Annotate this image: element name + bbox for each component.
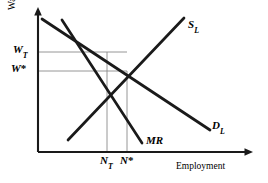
marginal-revenue-curve-MR bbox=[62, 20, 142, 143]
supply-curve-label: SL bbox=[188, 19, 199, 33]
employment-tick-nstar-base: N bbox=[120, 154, 128, 166]
wage-tick-wt-base: W bbox=[13, 43, 23, 55]
employment-tick-label-nt: NT bbox=[100, 155, 113, 169]
curves bbox=[42, 18, 210, 143]
x-axis-arrowhead bbox=[245, 148, 254, 156]
employment-tick-label-nstar: N* bbox=[120, 155, 133, 166]
y-axis-title: Wage bbox=[8, 0, 18, 10]
supply-curve-label-sub: L bbox=[194, 26, 199, 35]
y-axis-arrowhead bbox=[34, 7, 42, 16]
employment-tick-nt-sub: T bbox=[108, 162, 113, 171]
diagram-canvas bbox=[0, 0, 268, 183]
wage-tick-wstar-base: W bbox=[11, 62, 21, 74]
wage-tick-wstar-star: * bbox=[21, 62, 27, 74]
demand-curve-label-sub: L bbox=[220, 127, 225, 136]
demand-curve-label-base: D bbox=[212, 119, 220, 131]
employment-tick-nstar-star: * bbox=[128, 154, 134, 166]
supply-curve-SL bbox=[68, 18, 184, 140]
x-axis-title: Employment bbox=[176, 162, 225, 172]
wage-tick-wt-sub: T bbox=[23, 51, 28, 60]
demand-curve-DL bbox=[42, 19, 210, 130]
demand-curve-label: DL bbox=[212, 120, 225, 134]
marginal-revenue-curve-label: MR bbox=[146, 135, 163, 146]
labour-market-monopsony-diagram: Wage Employment SL DL MR WT W* NT N* bbox=[0, 0, 268, 183]
marginal-revenue-curve-label-base: MR bbox=[146, 134, 163, 146]
employment-tick-nt-base: N bbox=[100, 154, 108, 166]
wage-tick-label-wt: WT bbox=[13, 44, 28, 58]
wage-tick-label-wstar: W* bbox=[11, 63, 26, 74]
